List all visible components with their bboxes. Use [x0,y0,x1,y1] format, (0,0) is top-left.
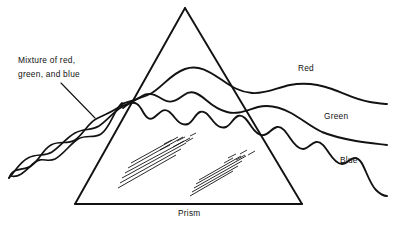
green-label: Green [324,111,348,121]
incoming-mixed-light-braid [9,103,122,178]
blue-label: Blue [340,155,358,165]
prism-right-edge [185,8,302,204]
glare-hatch-group-right [190,156,246,196]
caption-leader-line [61,83,95,118]
braid-strand-2 [9,105,122,178]
glare-hatch-group-left [118,137,190,188]
prism-label: Prism [178,208,200,218]
prism-dispersion-figure: Mixture of red, green, and blue Red Gree… [0,0,409,227]
input-label-line1: Mixture of red, [18,55,75,65]
input-label-line2: green, and blue [18,69,80,79]
prism-left-edge [75,8,185,204]
red-label: Red [298,63,314,73]
